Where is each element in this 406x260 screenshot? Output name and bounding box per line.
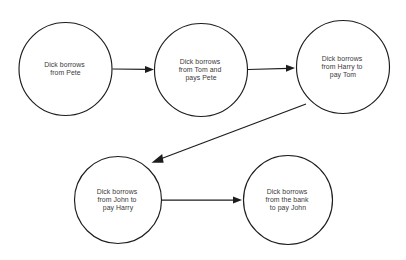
flowchart-diagram: Dick borrows from Pete Dick borrows from… bbox=[0, 0, 406, 260]
edge-tom-to-harry-arrowhead bbox=[286, 65, 295, 72]
edge-tom-to-harry-line bbox=[248, 68, 289, 69]
node-borrows-from-harry-pays-tom[interactable]: Dick borrows from Harry to pay Tom bbox=[297, 21, 390, 114]
edge-harry-to-john bbox=[152, 104, 307, 163]
edge-tom-to-harry bbox=[248, 65, 295, 72]
node-borrows-from-bank-pays-john-label: Dick borrows from the bank to pay John bbox=[266, 187, 311, 212]
node-borrows-from-john-pays-harry-label: Dick borrows from John to pay Harry bbox=[97, 187, 140, 212]
edge-john-to-bank bbox=[161, 197, 242, 204]
edge-john-to-bank-arrowhead bbox=[233, 197, 242, 204]
node-borrows-from-pete-label: Dick borrows from Pete bbox=[44, 61, 87, 76]
diagram-canvas: Dick borrows from Pete Dick borrows from… bbox=[0, 0, 406, 260]
edge-pete-to-tom bbox=[113, 66, 155, 73]
edge-harry-to-john-arrowhead bbox=[152, 154, 164, 163]
node-borrows-from-pete[interactable]: Dick borrows from Pete bbox=[19, 23, 112, 116]
node-borrows-from-bank-pays-john[interactable]: Dick borrows from the bank to pay John bbox=[244, 156, 333, 245]
edge-pete-to-tom-arrowhead bbox=[145, 66, 154, 73]
node-borrows-from-john-pays-harry[interactable]: Dick borrows from John to pay Harry bbox=[75, 157, 162, 244]
node-borrows-from-tom-pays-pete[interactable]: Dick borrows from Tom and pays Pete bbox=[155, 24, 248, 117]
